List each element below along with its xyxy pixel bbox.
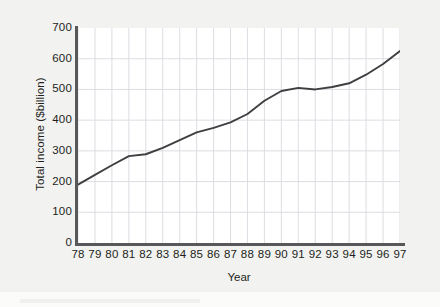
y-axis-title: Total income ($billion) bbox=[34, 34, 46, 234]
y-tick-label: 700 bbox=[0, 21, 72, 33]
x-axis-tick-labels: 7879808182838485868788899091929394959697 bbox=[78, 248, 400, 264]
x-tick-label: 97 bbox=[389, 248, 411, 260]
data-line-series bbox=[78, 28, 400, 243]
x-axis-spine bbox=[75, 243, 405, 246]
plot-area bbox=[78, 28, 400, 243]
x-axis-title: Year bbox=[78, 271, 400, 283]
chart-figure: 0100200300400500600700 78798081828384858… bbox=[0, 0, 440, 307]
y-tick-label: 0 bbox=[0, 236, 72, 248]
y-axis-spine bbox=[75, 26, 78, 245]
